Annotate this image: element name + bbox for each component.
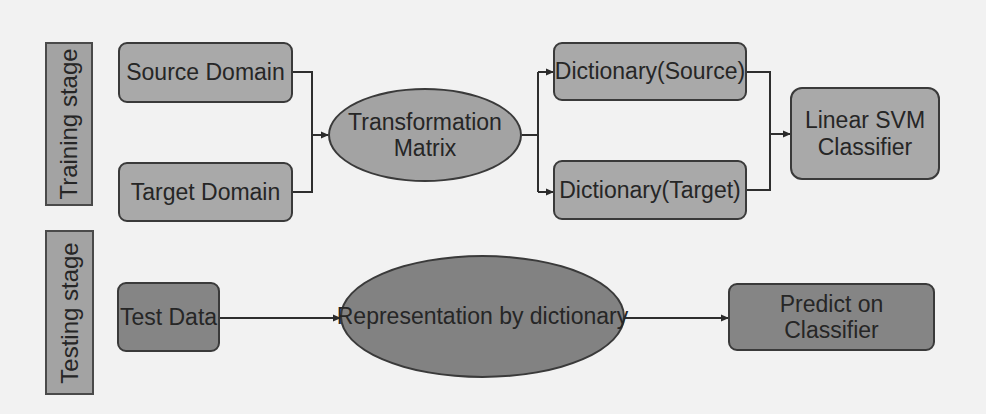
- transformation-matrix-text-line2: Matrix: [348, 135, 502, 161]
- linear-svm-classifier-node: Linear SVM Classifier: [790, 87, 940, 180]
- representation-by-dictionary-node: Representation by dictionary: [340, 255, 625, 378]
- source-domain-node: Source Domain: [118, 42, 293, 103]
- predict-on-classifier-node: Predict on Classifier: [728, 283, 935, 351]
- test-data-node: Test Data: [117, 282, 220, 352]
- training-stage-label: Training stage: [45, 42, 93, 206]
- source-domain-text: Source Domain: [126, 59, 285, 85]
- representation-text: Representation by dictionary: [337, 303, 629, 329]
- testing-stage-text: Testing stage: [56, 242, 84, 383]
- linear-svm-text-line2: Classifier: [805, 134, 925, 160]
- target-domain-node: Target Domain: [118, 162, 293, 222]
- linear-svm-text-line1: Linear SVM: [805, 107, 925, 133]
- testing-stage-label: Testing stage: [45, 230, 94, 395]
- transformation-matrix-text-line1: Transformation: [348, 109, 502, 135]
- transformation-matrix-node: Transformation Matrix: [328, 88, 522, 182]
- dictionary-target-node: Dictionary(Target): [553, 160, 747, 220]
- dictionary-source-text: Dictionary(Source): [555, 58, 745, 84]
- training-stage-text: Training stage: [55, 48, 83, 199]
- target-domain-text: Target Domain: [131, 179, 281, 205]
- dictionary-target-text: Dictionary(Target): [559, 177, 741, 203]
- dictionary-source-node: Dictionary(Source): [553, 42, 747, 101]
- test-data-text: Test Data: [120, 304, 217, 330]
- predict-text: Predict on Classifier: [730, 291, 933, 344]
